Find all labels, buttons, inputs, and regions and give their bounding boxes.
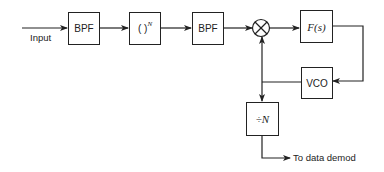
power-n-block: ( )N: [129, 12, 161, 45]
power-exponent-label: N: [147, 20, 152, 28]
bpf-1-label: BPF: [74, 23, 93, 34]
mixer-icon: [252, 19, 270, 37]
loop-filter-label: F(s): [307, 21, 325, 33]
bpf-block-2: BPF: [192, 12, 224, 45]
vco-label: VCO: [306, 78, 328, 89]
loop-filter-block: F(s): [300, 10, 333, 43]
input-label: Input: [30, 32, 51, 43]
bpf-block-1: BPF: [68, 12, 100, 45]
divider-block: ÷N: [246, 102, 279, 136]
divider-label: ÷N: [256, 113, 269, 125]
power-base-label: ( ): [138, 23, 147, 34]
bpf-2-label: BPF: [198, 23, 217, 34]
vco-block: VCO: [301, 67, 333, 99]
output-label: To data demod: [293, 152, 356, 163]
